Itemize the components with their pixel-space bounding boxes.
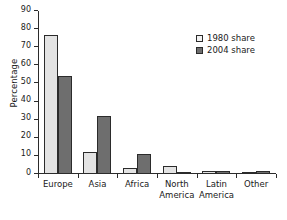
y-tick-label-20: 20 [21,131,31,141]
bar[interactable] [256,171,270,174]
bar[interactable] [97,116,111,174]
x-label-line: America [189,190,245,201]
x-label-line: Other [228,179,284,190]
legend-item-1980[interactable]: 1980 share [196,33,255,44]
bar-group [157,11,197,174]
x-tick [78,174,79,178]
y-axis-title: Percentage [9,43,19,123]
x-tick [38,174,39,178]
bar[interactable] [137,154,151,174]
bar-group [78,11,118,174]
bar[interactable] [177,172,191,174]
bar-group [38,11,78,174]
legend-label-2004: 2004 share [207,45,255,56]
bar[interactable] [123,168,137,174]
y-tick-label-0: 0 [26,168,31,178]
x-tick [197,174,198,178]
bar-group [117,11,157,174]
x-tick [276,174,277,178]
y-tick-label-90: 90 [21,5,31,15]
legend-item-2004[interactable]: 2004 share [196,45,255,56]
x-tick [236,174,237,178]
bar-chart: Percentage 0102030405060708090 EuropeAsi… [0,0,287,220]
legend-label-1980: 1980 share [207,33,255,44]
bar[interactable] [44,35,58,174]
y-tick-label-30: 30 [21,113,31,123]
bar[interactable] [202,171,216,174]
light-gray-swatch-icon [196,35,203,42]
bar[interactable] [163,166,177,174]
bar[interactable] [242,172,256,174]
dark-gray-swatch-icon [196,47,203,54]
legend: 1980 share 2004 share [196,33,255,57]
y-tick-label-40: 40 [21,95,31,105]
x-label-other: Other [228,179,284,190]
x-tick [117,174,118,178]
y-tick-label-80: 80 [21,23,31,33]
bar[interactable] [216,171,230,174]
y-tick-label-70: 70 [21,41,31,51]
bar[interactable] [83,152,97,174]
y-tick-label-10: 10 [21,149,31,159]
y-tick-label-50: 50 [21,77,31,87]
x-tick [157,174,158,178]
y-tick-label-60: 60 [21,59,31,69]
bar[interactable] [58,76,72,174]
